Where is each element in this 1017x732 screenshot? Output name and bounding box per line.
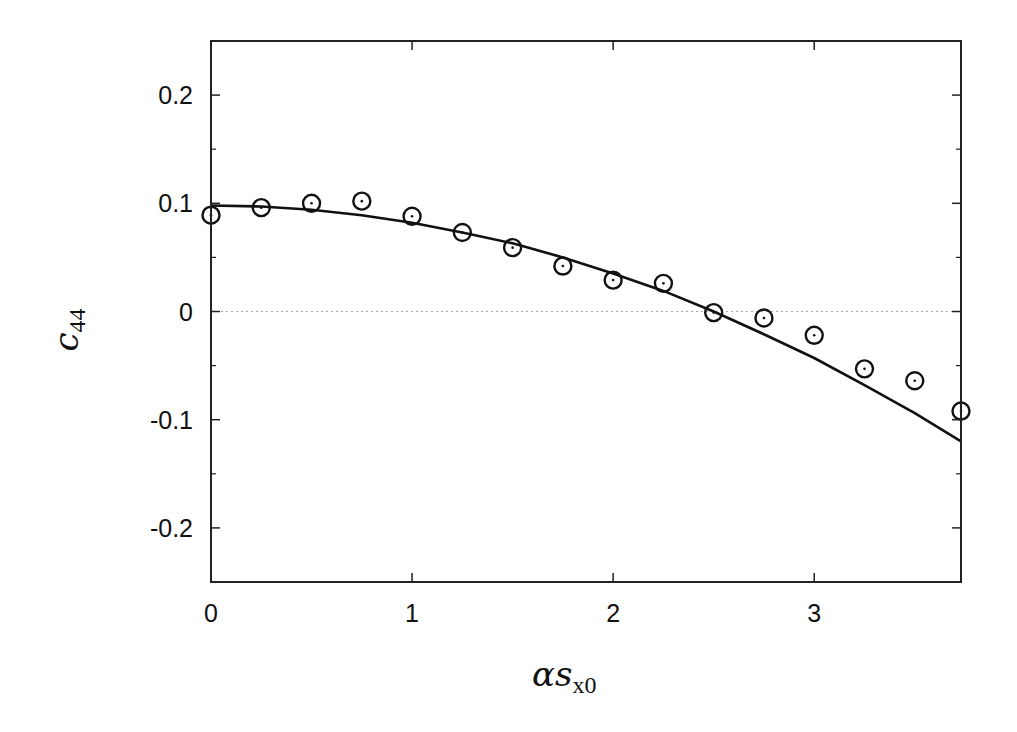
data-point-center-dot (612, 279, 615, 282)
chart: 0123 0.20.10-0.1-0.2 αsx0 c44 (0, 0, 1017, 732)
data-point-center-dot (913, 379, 916, 382)
data-point-center-dot (511, 246, 514, 249)
data-point-center-dot (361, 200, 364, 203)
data-point-center-dot (260, 206, 263, 209)
y-axis-title-sub: 44 (64, 308, 90, 332)
x-axis-title-sub: x0 (572, 672, 596, 698)
data-point-center-dot (411, 215, 414, 218)
x-axis-title-main: αs (532, 654, 572, 694)
x-tick-label: 1 (405, 599, 419, 627)
x-tick-label: 2 (606, 599, 620, 627)
y-tick-label: 0 (179, 298, 193, 326)
y-axis-title: c44 (46, 308, 90, 351)
x-axis: 0123 (204, 41, 821, 627)
y-tick-label: 0.2 (158, 81, 193, 109)
data-point-center-dot (461, 231, 464, 234)
data-points (203, 193, 970, 420)
y-tick-label: -0.2 (150, 514, 193, 542)
fit-curve (211, 206, 961, 442)
y-axis-title-main: c (46, 332, 86, 351)
data-point-center-dot (763, 317, 766, 320)
data-point-center-dot (712, 311, 715, 314)
data-point-center-dot (310, 202, 313, 205)
data-point-center-dot (813, 334, 816, 337)
data-point-center-dot (662, 282, 665, 285)
y-tick-label: -0.1 (150, 406, 193, 434)
plot-area (203, 193, 970, 442)
y-tick-label: 0.1 (158, 189, 193, 217)
data-point-center-dot (863, 368, 866, 371)
x-axis-title: αsx0 (532, 654, 596, 698)
x-tick-label: 0 (204, 599, 218, 627)
x-tick-label: 3 (807, 599, 821, 627)
data-point-center-dot (562, 265, 565, 268)
